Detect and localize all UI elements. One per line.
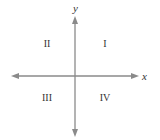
quadrant-label-ii: II — [44, 38, 51, 49]
y-axis-up-arrow-icon — [72, 16, 78, 24]
x-axis-label: x — [141, 70, 147, 82]
quadrant-label-i: I — [103, 38, 106, 49]
x-axis-left-arrow-icon — [11, 73, 19, 79]
y-axis-down-arrow-icon — [72, 129, 78, 137]
y-axis-label: y — [72, 2, 78, 14]
coordinate-plane-diagram: y x II I III IV — [0, 0, 160, 140]
quadrant-label-iv: IV — [100, 92, 111, 103]
quadrant-label-iii: III — [42, 92, 52, 103]
coordinate-plane-svg: y x II I III IV — [0, 0, 160, 140]
x-axis-right-arrow-icon — [131, 73, 139, 79]
